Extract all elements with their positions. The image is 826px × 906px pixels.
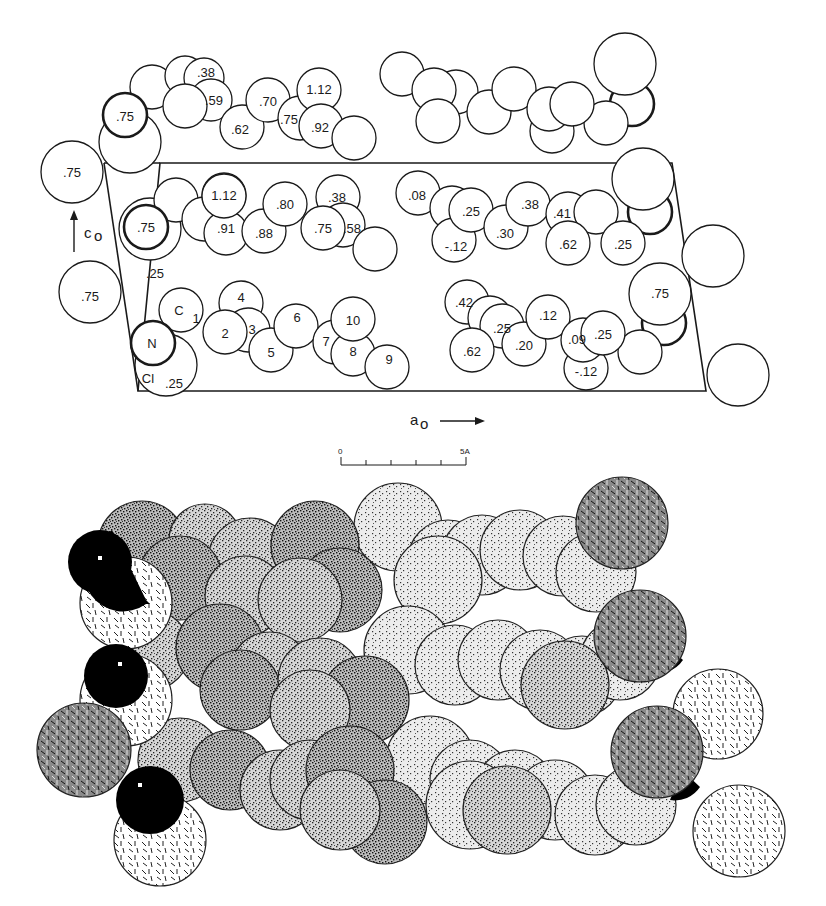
atom-label-C: C — [174, 303, 183, 318]
height-label: .08 — [408, 188, 426, 203]
atom-number: 8 — [349, 344, 356, 359]
svg-text:a: a — [410, 411, 419, 428]
height-label: .12 — [539, 308, 557, 323]
svg-text:o: o — [420, 415, 428, 432]
height-label: 1.12 — [306, 82, 331, 97]
height-label: .75 — [280, 112, 298, 127]
svg-text:5A: 5A — [460, 447, 470, 456]
molecule-mid-left: .75 .25 1.12 .91 .88 .80 .38 .75 .58 — [119, 173, 397, 281]
height-label: .91 — [217, 221, 235, 236]
height-label: .58 — [343, 221, 361, 236]
atom-label-N: N — [147, 336, 156, 351]
height-label: .38 — [328, 190, 346, 205]
scale-bar: 0 5A — [338, 447, 470, 465]
molecule-mid-right: .08 .25 -.12 .30 .38 .41 .62 .25 — [396, 148, 674, 265]
atom-number: 7 — [322, 334, 329, 349]
molecule-top-right — [380, 33, 656, 153]
height-label: .75 — [651, 286, 669, 301]
atom-number: 5 — [267, 345, 274, 360]
svg-text:o: o — [94, 227, 102, 244]
crystal-structure-figure: .75 .38 .59 .62 .70 1.12 .75 .92 .75 — [0, 0, 826, 906]
height-label: .25 — [165, 376, 183, 391]
height-label: .80 — [276, 197, 294, 212]
height-label: .75 — [137, 220, 155, 235]
height-label: 1.12 — [211, 188, 236, 203]
height-label: .38 — [521, 197, 539, 212]
height-label: .70 — [259, 94, 277, 109]
height-label: .25 — [462, 204, 480, 219]
height-label: .41 — [553, 206, 571, 221]
height-label: .20 — [515, 338, 533, 353]
molecule-bottom-right: .42 .25 .62 .20 .12 .09 -.12 .25 .75 — [445, 263, 691, 390]
height-label: -.12 — [445, 239, 467, 254]
atom-number: 6 — [293, 310, 300, 325]
height-label: .38 — [197, 65, 215, 80]
atom-number: 2 — [221, 326, 228, 341]
height-label: .42 — [455, 295, 473, 310]
height-label: .75 — [63, 165, 81, 180]
svg-text:c: c — [84, 224, 92, 241]
height-label: .62 — [559, 237, 577, 252]
height-label: .25 — [146, 266, 164, 281]
height-label: .30 — [496, 226, 514, 241]
height-label: .92 — [311, 120, 329, 135]
molecule-top-left: .75 .38 .59 .62 .70 1.12 .75 .92 — [99, 56, 376, 173]
projection-panel: .75 .38 .59 .62 .70 1.12 .75 .92 .75 — [41, 33, 769, 465]
height-label: .75 — [81, 289, 99, 304]
atom-number: 10 — [346, 313, 360, 328]
height-label: .25 — [594, 327, 612, 342]
atom-number: 1 — [192, 311, 199, 326]
height-label: .75 — [116, 109, 134, 124]
height-label: .88 — [255, 226, 273, 241]
height-label: .25 — [493, 321, 511, 336]
height-label: .62 — [231, 122, 249, 137]
atom-number: 9 — [385, 352, 392, 367]
height-label: .75 — [314, 221, 332, 236]
c-axis-indicator: c o — [70, 210, 102, 252]
atom-number: 4 — [237, 290, 244, 305]
height-label: .59 — [205, 93, 223, 108]
atom-label-Cl: Cl — [142, 371, 154, 386]
height-label: .62 — [463, 344, 481, 359]
height-label: -.12 — [575, 364, 597, 379]
atom-outside — [682, 225, 744, 287]
molecule-bottom-left: N Cl .25 C 1 2 3 4 5 6 7 8 9 10 — [131, 281, 409, 396]
atom-number: 3 — [248, 322, 255, 337]
space-filling-model — [37, 477, 785, 886]
atom-outside — [707, 344, 769, 406]
height-label: .09 — [568, 332, 586, 347]
svg-text:0: 0 — [338, 447, 343, 456]
height-label: .25 — [614, 237, 632, 252]
a-axis-indicator: a o — [410, 411, 485, 432]
